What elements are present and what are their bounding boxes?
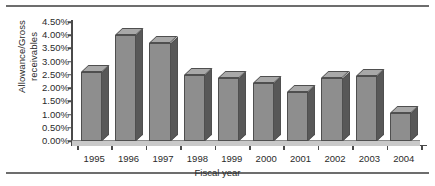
- x-axis-tick-mark: [111, 146, 113, 150]
- y-axis-tick-label: 2.00%: [42, 83, 69, 93]
- y-axis-tick-label: 0.00%: [42, 136, 69, 146]
- x-axis-tick-mark: [180, 146, 182, 150]
- x-axis-tick-mark: [387, 146, 389, 150]
- y-axis-tick-label: 4.00%: [42, 30, 69, 40]
- bar-column: [184, 75, 205, 141]
- bar-front-face: [115, 35, 136, 141]
- x-axis-tick-label: 2002: [324, 154, 345, 164]
- y-axis-tick-label: 2.50%: [42, 70, 69, 80]
- x-axis-tick-mark: [249, 146, 251, 150]
- x-axis-tick-label: 2000: [256, 154, 277, 164]
- bar-side-face: [377, 70, 384, 141]
- top-divider-rule: [6, 5, 429, 7]
- bar-column: [149, 43, 170, 141]
- bar-front-face: [356, 76, 377, 141]
- bar-column: [390, 113, 411, 141]
- bar-front-face: [253, 83, 274, 141]
- bar-front-face: [184, 75, 205, 141]
- x-axis-tick-label: 1997: [152, 154, 173, 164]
- bar-series: [71, 20, 427, 146]
- bar-column: [321, 78, 342, 141]
- bar-front-face: [390, 113, 411, 141]
- x-axis-tick-labels: 1995199619971998199920002001200220032004: [71, 154, 427, 168]
- x-axis-tick-mark: [318, 146, 320, 150]
- bar-side-face: [136, 29, 143, 141]
- y-axis-tick-label: 0.50%: [42, 123, 69, 133]
- x-axis-tick-mark: [146, 146, 148, 150]
- x-axis-tick-label: 2003: [359, 154, 380, 164]
- x-axis-tick-label: 2004: [393, 154, 414, 164]
- x-axis-title: Fiscal year: [0, 168, 435, 178]
- x-axis-tick-mark: [215, 146, 217, 150]
- y-axis-tick-label: 3.50%: [42, 44, 69, 54]
- bar-front-face: [321, 78, 342, 141]
- bar-column: [218, 78, 239, 141]
- bar-front-face: [149, 43, 170, 141]
- bar-side-face: [343, 71, 350, 141]
- bar-side-face: [274, 76, 281, 141]
- y-axis-tick-label: 3.00%: [42, 57, 69, 67]
- bar-side-face: [171, 37, 178, 141]
- x-axis-tick-label: 2001: [290, 154, 311, 164]
- bar-column: [287, 92, 308, 141]
- y-axis-tick-label: 1.00%: [42, 110, 69, 120]
- x-axis-tick-label: 1995: [84, 154, 105, 164]
- bar-front-face: [218, 78, 239, 141]
- bar-chart-figure: Allowance/Gross receivables 0.00%0.50%1.…: [0, 9, 435, 169]
- bar-side-face: [102, 66, 109, 141]
- bar-column: [81, 72, 102, 141]
- x-axis-tick-mark: [352, 146, 354, 150]
- y-axis-tick-label: 4.50%: [42, 17, 69, 27]
- x-axis-tick-label: 1996: [118, 154, 139, 164]
- x-axis-tick-mark: [421, 146, 423, 150]
- y-axis-tick-labels: 0.00%0.50%1.00%1.50%2.00%2.50%3.00%3.50%…: [33, 9, 69, 149]
- x-axis-tick-label: 1998: [187, 154, 208, 164]
- bar-front-face: [81, 72, 102, 141]
- bar-side-face: [205, 68, 212, 141]
- bar-column: [115, 35, 136, 141]
- x-axis-tick-mark: [77, 146, 79, 150]
- bar-front-face: [287, 92, 308, 141]
- plot-area: [71, 20, 427, 146]
- bar-column: [356, 76, 377, 141]
- y-axis-tick-label: 1.50%: [42, 97, 69, 107]
- y-axis-title-line-1: Allowance/Gross: [16, 0, 28, 119]
- x-axis-tick-mark: [283, 146, 285, 150]
- bar-side-face: [239, 71, 246, 141]
- x-axis-tick-label: 1999: [221, 154, 242, 164]
- bar-column: [253, 83, 274, 141]
- bar-side-face: [308, 86, 315, 141]
